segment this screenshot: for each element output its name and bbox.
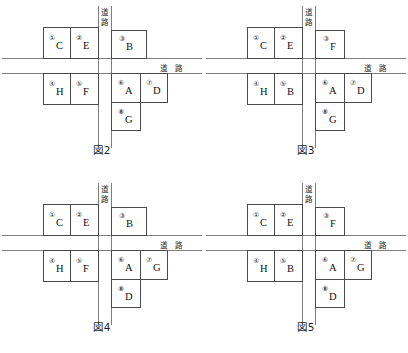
road-char-1: 道 [100,185,109,195]
fig5-road-label-vertical: 道 路 [304,185,313,205]
fig3-caption: 図3 [204,142,408,157]
road-char-1: 道 [304,185,313,195]
fig5-caption: 図5 [204,319,408,334]
fig2-road-label-vertical: 道 路 [100,8,109,28]
road-char-2: 路 [304,195,313,205]
fig3-road-label-vertical: 道 路 [304,8,313,28]
road-char-1: 道 [100,8,109,18]
fig4-caption: 図4 [0,319,204,334]
road-char-2: 路 [100,18,109,28]
road-char-2: 路 [304,18,313,28]
figures-grid: 道 路 道 路 ①C ②E ③B ④H ⑤F ⑥A ⑦D ⑧G 図2 [0,0,408,353]
fig2-caption: 図2 [0,142,204,157]
figure-fig3: 道 路 道 路 ①C ②E ③F ④H ⑤B ⑥A ⑦D ⑧G 図3 [204,0,408,176]
fig4-road-label-vertical: 道 路 [100,185,109,205]
fig4-road-label-horizontal: 道 路 [160,239,185,250]
fig2-road-label-horizontal: 道 路 [160,62,185,73]
road-char-1: 道 [304,8,313,18]
figure-fig5: 道 路 道 路 ①C ②E ③F ④H ⑤B ⑥A ⑦G ⑧D 図5 [204,177,408,353]
figure-fig4: 道 路 道 路 ①C ②E ③B ④H ⑤F ⑥A ⑦G ⑧D 図4 [0,177,204,353]
fig3-road-label-horizontal: 道 路 [364,62,389,73]
fig5-road-label-horizontal: 道 路 [364,239,389,250]
figure-fig2: 道 路 道 路 ①C ②E ③B ④H ⑤F ⑥A ⑦D ⑧G 図2 [0,0,204,176]
road-char-2: 路 [100,195,109,205]
